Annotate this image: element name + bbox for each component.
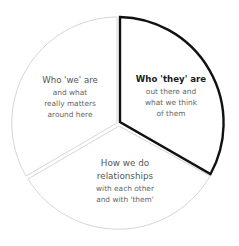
- segment-they-label: Who 'they' are out there and what we thi…: [126, 73, 216, 119]
- segment-we-title: Who 'we' are: [30, 74, 110, 87]
- segment-relationships-title-line: How we do: [80, 157, 170, 170]
- segment-we-desc-line: around here: [30, 109, 110, 120]
- segment-relationships-desc-line: with each other: [80, 183, 170, 194]
- segmented-circle-diagram: [0, 0, 239, 246]
- segment-they-title: Who 'they' are: [126, 73, 216, 86]
- segment-relationships-label: How we do relationships with each other …: [80, 157, 170, 205]
- segment-we-label: Who 'we' are and what really matters aro…: [30, 74, 110, 120]
- segment-we-desc-line: really matters: [30, 98, 110, 109]
- segment-they-desc-line: what we think: [126, 97, 216, 108]
- segment-relationships-desc-line: and with 'them': [80, 194, 170, 205]
- segment-they-desc-line: out there and: [126, 86, 216, 97]
- segment-we-desc-line: and what: [30, 87, 110, 98]
- segment-relationships-title-line: relationships: [80, 170, 170, 183]
- segment-they-desc-line: of them: [126, 108, 216, 119]
